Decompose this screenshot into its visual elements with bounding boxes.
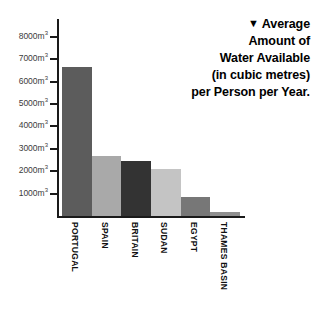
bar-britain	[121, 161, 151, 216]
y-tick-label-2000: 2000m3	[19, 165, 48, 175]
x-label-thames-basin: THAMES BASIN	[219, 222, 229, 290]
y-tick-label-8000: 8000m3	[19, 31, 48, 41]
bar-spain	[92, 156, 122, 216]
y-tick-label-3000: 3000m3	[19, 143, 48, 153]
bar-sudan	[151, 169, 181, 216]
bar-egypt	[181, 197, 211, 216]
y-tick-7000	[50, 58, 58, 60]
y-tick-label-7000: 7000m3	[19, 53, 48, 63]
y-tick-2000	[50, 170, 58, 172]
y-tick-label-6000: 6000m3	[19, 76, 48, 86]
y-tick-1000	[50, 193, 58, 195]
down-triangle-icon: ▼	[248, 17, 259, 29]
y-tick-5000	[50, 103, 58, 105]
x-label-sudan: SUDAN	[159, 222, 169, 254]
y-axis-line	[57, 19, 59, 218]
x-label-britain: BRITAIN	[130, 222, 140, 258]
water-availability-bar-chart: ▼Average Amount of Water Available (in c…	[0, 0, 321, 309]
x-label-spain: SPAIN	[100, 222, 110, 249]
y-tick-8000	[50, 36, 58, 38]
x-axis-line	[57, 216, 245, 218]
bar-portugal	[62, 67, 92, 216]
x-label-portugal: PORTUGAL	[70, 222, 80, 272]
title-line-1-text: Average	[262, 17, 310, 31]
x-label-egypt: EGYPT	[189, 222, 199, 252]
y-tick-label-5000: 5000m3	[19, 98, 48, 108]
y-tick-label-1000: 1000m3	[19, 188, 48, 198]
y-tick-label-4000: 4000m3	[19, 120, 48, 130]
y-tick-4000	[50, 125, 58, 127]
y-tick-3000	[50, 148, 58, 150]
y-tick-6000	[50, 81, 58, 83]
bar-thames-basin	[210, 212, 240, 216]
bars-group	[62, 19, 240, 216]
